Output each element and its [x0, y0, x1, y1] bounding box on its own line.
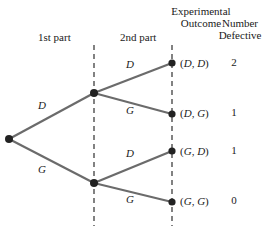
outcome-second-letter: G: [197, 195, 205, 207]
outcome-first-letter: D: [184, 57, 192, 69]
outcome-first-letter: D: [184, 107, 192, 119]
outcome-first-letter: G: [184, 145, 192, 157]
tree-nodes: [5, 59, 176, 205]
outcome-close-paren: ): [205, 57, 209, 69]
outcome-label: (G, G): [180, 195, 209, 207]
defective-count: 1: [222, 144, 246, 156]
outcome-second-letter: D: [197, 57, 205, 69]
outcome-first-letter: G: [184, 195, 192, 207]
branch-label-level2-lower-upper: D: [126, 147, 134, 159]
branch-label-level2-upper-upper: D: [126, 58, 134, 70]
branch-level1-lower: [9, 139, 94, 183]
outcome-label: (D, G): [180, 107, 209, 119]
outcome-close-paren: ): [205, 195, 209, 207]
branch-label-level2-upper-lower: G: [126, 104, 134, 116]
outcome-close-paren: ): [205, 107, 209, 119]
node-level1-upper: [90, 89, 98, 97]
branch-label-level1-upper: D: [38, 99, 46, 111]
outcome-label: (D, D): [180, 57, 209, 69]
outcome-second-letter: D: [197, 145, 205, 157]
tree-diagram-figure: 1st part 2nd part Experimental Outcome N…: [0, 0, 269, 228]
node-level1-lower: [90, 179, 98, 187]
node-outcome-dd: [168, 59, 175, 66]
node-root: [5, 135, 13, 143]
branch-label-level2-lower-lower: G: [126, 193, 134, 205]
outcome-second-letter: G: [197, 107, 205, 119]
branch-label-level1-lower: G: [38, 163, 46, 175]
node-outcome-dg: [168, 110, 175, 117]
node-outcome-gg: [168, 198, 175, 205]
defective-count: 1: [222, 106, 246, 118]
branch-level1-upper: [9, 93, 94, 139]
node-outcome-gd: [168, 147, 175, 154]
defective-count: 0: [222, 194, 246, 206]
defective-count: 2: [222, 56, 246, 68]
outcome-close-paren: ): [205, 145, 209, 157]
outcome-label: (G, D): [180, 145, 209, 157]
